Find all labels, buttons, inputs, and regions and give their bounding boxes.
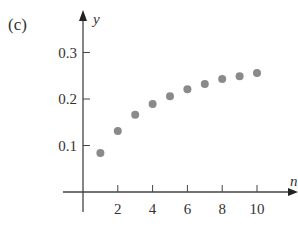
ticks: 2468100.10.20.3 — [58, 45, 264, 218]
data-point — [236, 72, 244, 80]
x-axis-arrow-icon — [288, 188, 298, 196]
y-tick-label: 0.1 — [58, 138, 77, 154]
x-tick-label: 10 — [250, 201, 265, 217]
axes — [63, 10, 298, 212]
y-tick-label: 0.3 — [58, 45, 77, 61]
x-axis-label: n — [290, 173, 298, 189]
data-point — [201, 80, 209, 88]
panel-label: (c) — [8, 15, 27, 34]
data-points — [96, 69, 261, 157]
data-point — [218, 75, 226, 83]
scatter-chart: (c) 2468100.10.20.3 y n — [0, 0, 298, 228]
data-point — [131, 111, 139, 119]
data-point — [96, 149, 104, 157]
x-tick-label: 2 — [114, 201, 122, 217]
x-tick-label: 4 — [149, 201, 157, 217]
data-point — [149, 100, 157, 108]
data-point — [166, 92, 174, 100]
y-tick-label: 0.2 — [58, 91, 77, 107]
data-point — [114, 127, 122, 135]
data-point — [183, 85, 191, 93]
y-axis-arrow-icon — [79, 10, 87, 21]
x-tick-label: 6 — [184, 201, 192, 217]
y-axis-label: y — [91, 11, 100, 27]
data-point — [253, 69, 261, 77]
x-tick-label: 8 — [218, 201, 226, 217]
